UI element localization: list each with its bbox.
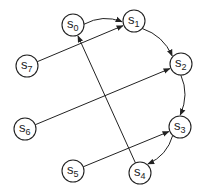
edge-s1-to-s2 xyxy=(142,28,172,55)
edge-s3-to-s4 xyxy=(148,135,173,164)
edge-s4-to-s0 xyxy=(78,36,136,163)
node-s3: s3 xyxy=(169,116,191,138)
node-s7: s7 xyxy=(16,55,38,77)
edges-layer xyxy=(35,18,185,166)
node-s6: s6 xyxy=(14,118,36,140)
edge-s0-to-s1 xyxy=(84,18,122,24)
node-s4: s4 xyxy=(129,162,151,184)
node-s0: s0 xyxy=(62,14,84,36)
edge-s5-to-s3 xyxy=(83,132,169,167)
node-s2: s2 xyxy=(170,53,192,75)
node-s5: s5 xyxy=(62,160,84,182)
edge-s6-to-s2 xyxy=(35,69,170,125)
node-s1: s1 xyxy=(123,10,145,32)
directed-graph: s0s1s2s3s4s5s6s7 xyxy=(0,0,208,196)
edge-s2-to-s3 xyxy=(180,75,185,115)
